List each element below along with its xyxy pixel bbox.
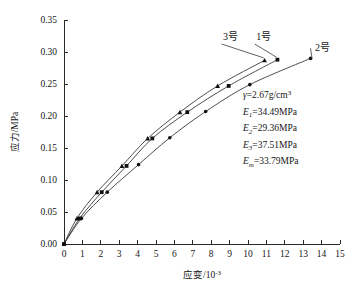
annotation-text-block: γ=2.67g/cm3E1=34.49MPaE2=29.36MPaE3=37.5… [242,89,299,169]
data-marker-dot [248,83,252,87]
y-tick-label: 0.15 [40,143,57,153]
y-axis-tick-labels: 0.000.050.100.150.200.250.300.35 [40,15,57,249]
data-marker-triangle [215,84,220,88]
series-label-1: 3号 [223,31,238,42]
x-tick-label: 13 [298,249,308,259]
stress-strain-chart-figure: 0.000.050.100.150.200.250.300.35 0123456… [0,0,355,292]
data-marker-dot [105,190,109,194]
annotation-E2: E2=29.36MPa [242,123,298,136]
x-tick-label: 0 [62,249,67,259]
y-tick-label: 0.20 [40,111,57,121]
x-tick-label: 7 [190,249,195,259]
x-tick-label: 15 [335,249,345,259]
series-leader-2 [255,44,277,57]
chart-canvas: 0.000.050.100.150.200.250.300.35 0123456… [0,0,355,292]
x-tick-label: 8 [209,249,214,259]
axes-group [64,20,340,244]
y-axis-title-text: 应力/MPa [9,111,20,152]
data-marker-square [276,58,280,62]
x-axis-title: 应变/10-3 [183,269,221,280]
data-marker-square [100,190,104,194]
series-label-2: 1号 [256,31,271,42]
data-marker-dot [168,136,172,140]
x-tick-label: 6 [172,249,177,259]
y-axis-title: 应力/MPa [9,111,20,152]
data-markers-group [62,57,313,246]
y-tick-label: 0.35 [40,15,57,25]
series-leader-1 [222,44,264,58]
data-marker-triangle [262,58,267,62]
annotation-text-Em: Em=33.79MPa [242,156,299,169]
y-tick-label: 0.30 [40,47,57,57]
y-axis-ticks [64,20,68,244]
annotation-E3: E3=37.51MPa [242,140,298,153]
series-label-3: 2号 [315,42,330,53]
x-tick-label: 10 [243,249,253,259]
data-marker-square [125,164,129,168]
x-tick-label: 1 [80,249,85,259]
x-tick-label: 12 [280,249,290,259]
data-marker-square [185,110,189,114]
annotation-text-E1: E1=34.49MPa [242,107,298,120]
x-axis-title-text: 应变/10-3 [183,269,221,280]
y-tick-label: 0.00 [40,239,57,249]
data-curves-group [64,58,311,244]
annotation-text-E2: E2=29.36MPa [242,123,298,136]
x-tick-label: 5 [154,249,159,259]
data-marker-dot [204,110,208,114]
annotation-text-gamma: γ=2.67g/cm3 [243,89,292,100]
y-tick-label: 0.05 [40,207,57,217]
x-axis-ticks [64,240,340,244]
data-marker-square [150,137,154,141]
x-tick-label: 11 [262,249,271,259]
data-marker-dot [80,217,84,221]
x-axis-tick-labels: 0123456789101112131415 [62,249,345,259]
series-curve-3 [64,58,311,244]
data-marker-dot [62,242,66,246]
series-leader-lines [222,44,313,58]
annotation-text-E3: E3=37.51MPa [242,140,298,153]
x-tick-label: 4 [135,249,140,259]
x-tick-label: 9 [227,249,232,259]
y-tick-label: 0.10 [40,175,57,185]
annotation-gamma: γ=2.67g/cm3 [243,89,292,100]
data-marker-dot [137,163,141,167]
annotation-E1: E1=34.49MPa [242,107,298,120]
x-tick-label: 3 [117,249,122,259]
series-curve-1 [64,60,265,244]
data-marker-square [227,84,231,88]
x-tick-label: 14 [317,249,327,259]
y-tick-label: 0.25 [40,79,57,89]
x-tick-label: 2 [98,249,103,259]
annotation-Em: Em=33.79MPa [242,156,299,169]
